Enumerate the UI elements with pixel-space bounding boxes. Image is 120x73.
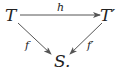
node-T-prime: T′: [100, 7, 115, 24]
label-h: h: [57, 2, 64, 13]
node-T: T: [5, 7, 16, 24]
node-S: S.: [54, 53, 70, 70]
arrow-f-prime: [70, 23, 102, 54]
arrow-f: [18, 23, 51, 54]
label-f-prime: f′: [87, 40, 94, 51]
label-f: f: [25, 40, 29, 51]
